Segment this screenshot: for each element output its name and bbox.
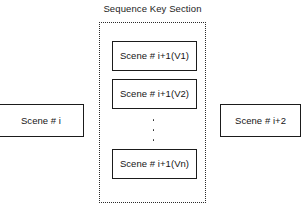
scene-next-label: Scene # i+2	[235, 115, 286, 127]
scene-box-next: Scene # i+2	[220, 104, 301, 137]
scene-variant-label-2: Scene # i+1(V2)	[120, 88, 189, 100]
ellipsis-dot	[153, 129, 155, 131]
sequence-key-section-container: Scene # i+1(V1) Scene # i+1(V2) Scene # …	[99, 22, 206, 203]
vertical-ellipsis-icon	[150, 119, 157, 141]
page-title: Sequence Key Section	[0, 3, 305, 15]
scene-variant-box-n: Scene # i+1(Vn)	[112, 149, 197, 179]
scene-variant-box-1: Scene # i+1(V1)	[112, 41, 197, 71]
scene-variant-label-1: Scene # i+1(V1)	[120, 50, 189, 62]
ellipsis-dot	[153, 139, 155, 141]
diagram-canvas: Sequence Key Section Scene # i Scene # i…	[0, 0, 305, 208]
scene-variant-label-n: Scene # i+1(Vn)	[120, 158, 189, 170]
scene-previous-label: Scene # i	[21, 115, 61, 127]
scene-box-previous: Scene # i	[0, 104, 84, 137]
scene-variant-box-2: Scene # i+1(V2)	[112, 79, 197, 109]
ellipsis-dot	[153, 119, 155, 121]
